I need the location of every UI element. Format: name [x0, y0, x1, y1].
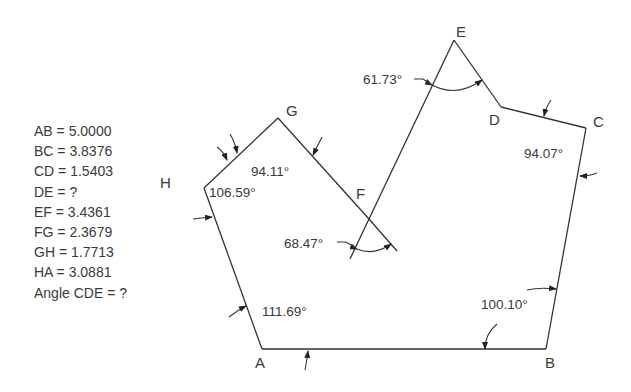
vertex-label-c: C [593, 113, 604, 130]
edge-fg [278, 118, 369, 219]
edge-ef [369, 40, 454, 219]
extension-line-ef [350, 219, 369, 259]
vertex-label-h: H [160, 174, 171, 191]
leader-angle-f [337, 242, 356, 248]
arc-angle-b-lower [485, 324, 497, 349]
arrow-angle-a [229, 306, 246, 317]
angle-label-b: 100.10° [481, 297, 528, 312]
edge-cd [501, 107, 586, 128]
angle-label-h: 106.59° [209, 185, 256, 200]
polygon-diagram: A B C D E F G H 111.69° 100.10° 94.07° 6… [0, 0, 631, 392]
vertex-label-b: B [545, 354, 555, 371]
angle-label-g: 94.11° [251, 164, 289, 179]
vertex-label-g: G [286, 102, 298, 119]
edge-ha [204, 188, 262, 349]
angle-label-a: 111.69° [262, 304, 307, 319]
arrow-angle-g-2 [230, 134, 237, 153]
angle-label-c: 94.07° [524, 146, 563, 161]
arrow-angle-a-base [305, 351, 308, 370]
vertex-label-f: F [356, 185, 365, 202]
extension-line-fg [369, 219, 397, 251]
edge-bc [546, 128, 586, 349]
angle-label-e: 61.73° [363, 72, 402, 87]
arrow-angle-c-side [580, 173, 597, 176]
angle-label-f: 68.47° [284, 236, 323, 251]
edge-de [454, 40, 501, 107]
arrow-angle-g-1 [217, 147, 227, 160]
arrow-angle-g-3 [313, 137, 322, 155]
arc-angle-b-upper [527, 288, 556, 290]
arrow-angle-h [193, 217, 212, 219]
vertex-label-e: E [456, 23, 466, 40]
arrow-angle-c-top [544, 100, 551, 116]
arc-angle-f [357, 244, 391, 252]
vertex-label-a: A [255, 354, 265, 371]
arc-angle-e [432, 80, 482, 90]
leader-angle-e [414, 79, 432, 85]
vertex-label-d: D [489, 111, 500, 128]
